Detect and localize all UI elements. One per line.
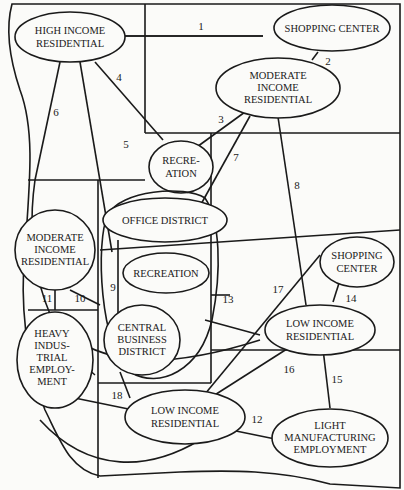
svg-text:11: 11 [42, 292, 53, 304]
svg-text:15: 15 [332, 373, 344, 385]
svg-text:6: 6 [53, 106, 59, 118]
svg-text:9: 9 [110, 281, 116, 293]
land-use-diagram: HIGH INCOMERESIDENTIAL SHOPPING CENTER M… [0, 0, 404, 490]
node-recreation-top [149, 141, 213, 193]
svg-text:1: 1 [198, 20, 204, 32]
svg-text:4: 4 [116, 71, 122, 83]
node-low-income-residential-bottom [125, 390, 245, 444]
svg-text:14: 14 [346, 292, 358, 304]
svg-text:17: 17 [273, 283, 285, 295]
svg-text:RECREATION: RECREATION [133, 268, 199, 279]
svg-text:12: 12 [252, 413, 263, 425]
svg-text:16: 16 [284, 363, 296, 375]
svg-text:OFFICE DISTRICT: OFFICE DISTRICT [122, 215, 209, 226]
svg-text:SHOPPING CENTER: SHOPPING CENTER [285, 23, 380, 34]
node-shopping-center-right [320, 237, 394, 287]
svg-text:13: 13 [223, 293, 235, 305]
svg-text:18: 18 [112, 389, 124, 401]
node-low-income-residential-right [265, 305, 375, 355]
svg-text:5: 5 [123, 138, 129, 150]
svg-text:8: 8 [294, 179, 300, 191]
svg-text:2: 2 [325, 55, 331, 67]
svg-text:7: 7 [233, 151, 239, 163]
svg-text:CENTRALBUSINESSDISTRICT: CENTRALBUSINESSDISTRICT [117, 322, 167, 357]
svg-text:10: 10 [75, 292, 87, 304]
svg-text:3: 3 [218, 113, 224, 125]
node-high-income-residential [15, 12, 125, 62]
